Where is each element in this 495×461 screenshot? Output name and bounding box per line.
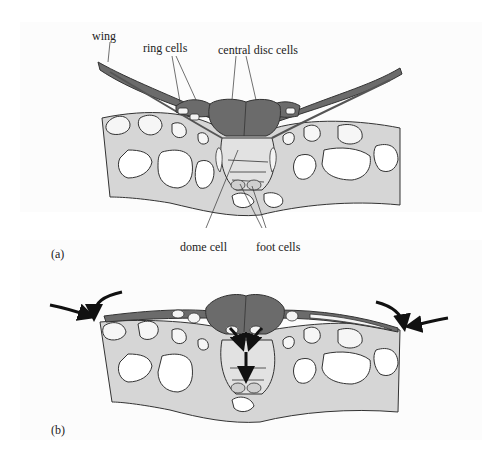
- panel-b-label: (b): [51, 424, 65, 436]
- scale-gland-diagram: [0, 0, 495, 461]
- panel-a-label: (a): [51, 248, 64, 260]
- panel-a-drawing: [98, 42, 402, 228]
- label-foot-cells: foot cells: [256, 241, 300, 253]
- panel-b-drawing: [50, 292, 448, 422]
- label-central-disc-cells: central disc cells: [218, 44, 298, 56]
- label-ring-cells: ring cells: [143, 42, 187, 54]
- label-dome-cell: dome cell: [180, 241, 227, 253]
- label-wing: wing: [92, 30, 116, 42]
